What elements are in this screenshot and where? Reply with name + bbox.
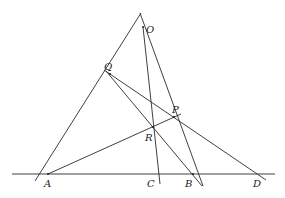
label-B: B — [184, 178, 192, 189]
label-D: D — [252, 178, 261, 189]
label-R: R — [144, 132, 153, 143]
point-P — [173, 116, 175, 118]
line-AP — [48, 114, 181, 174]
label-A: A — [43, 178, 51, 189]
line-QB — [106, 71, 202, 186]
line-QD — [104, 70, 266, 180]
geometry-diagram: O Q P R A C B D — [0, 0, 285, 198]
label-O: O — [146, 24, 154, 35]
line-OB — [140, 13, 203, 186]
label-P: P — [171, 104, 179, 115]
label-C: C — [147, 178, 155, 189]
point-A — [47, 173, 49, 175]
point-B — [192, 173, 194, 175]
point-O — [142, 26, 144, 28]
point-Q — [109, 73, 111, 75]
label-Q: Q — [104, 61, 112, 72]
point-R — [152, 126, 154, 128]
line-OC — [143, 27, 160, 184]
